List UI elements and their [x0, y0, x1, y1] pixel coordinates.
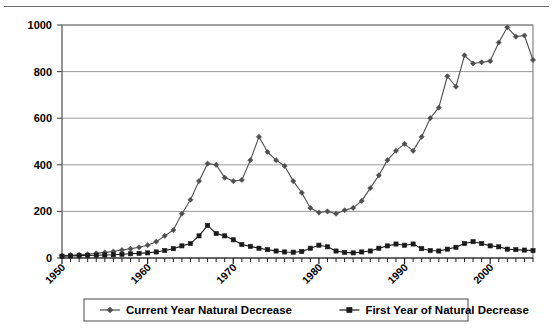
data-marker-square	[411, 242, 415, 246]
x-tick-label-group-1960: 1960	[128, 261, 153, 286]
data-marker-square	[385, 244, 389, 248]
data-marker-square	[197, 234, 201, 238]
data-marker-square	[103, 253, 107, 257]
data-marker-square	[325, 245, 329, 249]
y-tick-label-200: 200	[34, 205, 52, 217]
data-marker-square	[471, 240, 475, 244]
data-marker-square	[402, 243, 406, 247]
chart-figure: 02004006008001000 1950196019701980199020…	[0, 0, 552, 330]
data-marker-square	[283, 250, 287, 254]
data-marker-square	[334, 249, 338, 253]
x-tick-label-group-2000: 2000	[471, 261, 496, 286]
data-marker-square	[214, 231, 218, 235]
data-marker-square	[514, 248, 518, 252]
x-tick-label-1960: 1960	[128, 261, 153, 286]
data-marker-square	[480, 241, 484, 245]
data-marker-square	[291, 250, 295, 254]
data-marker-square	[360, 250, 364, 254]
data-marker-square	[94, 253, 98, 257]
data-marker-square	[531, 248, 535, 252]
data-marker-square	[257, 246, 261, 250]
data-marker-square	[223, 234, 227, 238]
data-marker-square	[522, 248, 526, 252]
data-marker-square	[497, 245, 501, 249]
data-marker-square	[86, 253, 90, 257]
line-chart: 02004006008001000 1950196019701980199020…	[0, 0, 552, 330]
y-tick-label-800: 800	[34, 66, 52, 78]
data-marker-square	[68, 254, 72, 258]
data-marker-square	[180, 244, 184, 248]
x-tick-label-1970: 1970	[214, 261, 239, 286]
data-marker-square	[454, 245, 458, 249]
data-marker-square	[428, 248, 432, 252]
plot-area-background	[62, 25, 533, 258]
data-marker-square	[488, 244, 492, 248]
data-marker-square	[377, 246, 381, 250]
data-marker-square	[274, 249, 278, 253]
data-marker-square	[163, 248, 167, 252]
x-axis-minor-ticks	[62, 258, 533, 264]
x-tick-label-2000: 2000	[471, 261, 496, 286]
y-axis-ticks: 02004006008001000	[28, 19, 62, 264]
legend-entry-1: Current Year Natural Decrease	[100, 304, 292, 316]
data-marker-square	[60, 254, 64, 258]
data-marker-square	[437, 249, 441, 253]
x-tick-label-group-1950: 1950	[42, 261, 67, 286]
x-axis-tick-labels: 195019601970198019902000	[42, 261, 495, 286]
legend-entry-2: First Year of Natural Decrease	[339, 304, 528, 316]
x-tick-label-group-1990: 1990	[385, 261, 410, 286]
legend-label-1: Current Year Natural Decrease	[126, 304, 292, 316]
y-tick-label-1000: 1000	[28, 19, 52, 31]
y-tick-label-600: 600	[34, 112, 52, 124]
data-marker-square	[111, 253, 115, 257]
x-tick-label-group-1980: 1980	[299, 261, 324, 286]
x-tick-label-1990: 1990	[385, 261, 410, 286]
data-marker-square	[188, 241, 192, 245]
data-marker-square	[205, 223, 209, 227]
legend-label-2: First Year of Natural Decrease	[365, 304, 528, 316]
data-marker-square	[317, 243, 321, 247]
x-tick-label-1980: 1980	[299, 261, 324, 286]
data-marker-square	[505, 247, 509, 251]
data-marker-square	[420, 247, 424, 251]
data-marker-square	[394, 242, 398, 246]
data-marker-square	[351, 251, 355, 255]
data-marker-square	[368, 249, 372, 253]
x-tick-label-group-1970: 1970	[214, 261, 239, 286]
data-marker-square	[308, 246, 312, 250]
data-marker-square	[77, 254, 81, 258]
data-marker-square	[146, 251, 150, 255]
data-marker-square	[240, 242, 244, 246]
data-marker-square	[462, 241, 466, 245]
data-marker-square	[265, 248, 269, 252]
y-tick-label-0: 0	[46, 252, 52, 264]
data-marker-square	[171, 247, 175, 251]
data-marker-square	[343, 250, 347, 254]
data-marker-square	[128, 252, 132, 256]
data-marker-square	[347, 307, 352, 312]
data-marker-square	[231, 238, 235, 242]
data-marker-square	[248, 244, 252, 248]
chart-legend: Current Year Natural DecreaseFirst Year …	[84, 299, 529, 321]
x-tick-label-1950: 1950	[42, 261, 67, 286]
data-marker-square	[137, 251, 141, 255]
data-marker-square	[120, 252, 124, 256]
data-marker-square	[445, 247, 449, 251]
y-tick-label-400: 400	[34, 159, 52, 171]
data-marker-square	[300, 249, 304, 253]
data-marker-square	[154, 250, 158, 254]
